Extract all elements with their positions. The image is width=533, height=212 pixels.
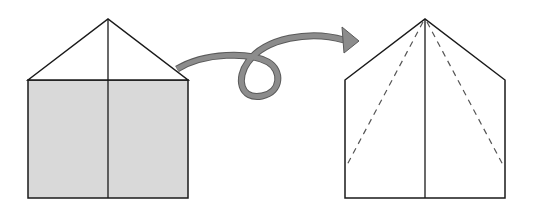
diagram-canvas bbox=[0, 0, 533, 212]
folding-diagram bbox=[0, 0, 533, 212]
left-paper-shape bbox=[28, 19, 188, 198]
right-paper-shape bbox=[345, 19, 505, 198]
turn-over-arrow-icon bbox=[177, 27, 359, 96]
arrow-head-icon bbox=[342, 27, 359, 53]
